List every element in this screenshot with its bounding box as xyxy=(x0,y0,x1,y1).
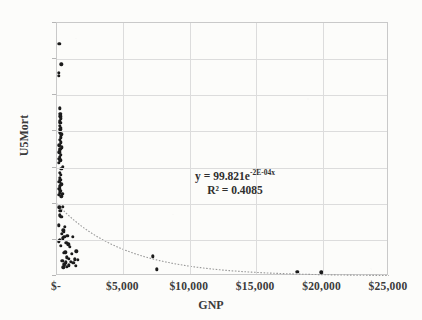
gridline-horizontal xyxy=(57,204,387,205)
y-axis-title: U5Mort xyxy=(17,96,32,176)
x-axis-tick-label: $15,000 xyxy=(220,280,290,292)
gridline-vertical xyxy=(323,23,324,274)
r-squared-line: R² = 0.4085 xyxy=(160,183,310,197)
x-axis-tick-label: $10,000 xyxy=(154,280,224,292)
y-axis-tick-mark xyxy=(52,203,56,204)
y-axis-tick-mark xyxy=(52,130,56,131)
trendline-svg xyxy=(57,23,389,276)
x-axis-tick-label: $5,000 xyxy=(87,280,157,292)
equation-body: y = 99.821e xyxy=(195,170,250,182)
y-axis-tick-mark xyxy=(52,22,56,23)
x-axis-tick-label: $25,000 xyxy=(353,280,422,292)
x-axis-tick-label: $- xyxy=(21,280,91,292)
trendline-equation-annotation: y = 99.821e-2E-04x R² = 0.4085 xyxy=(160,168,310,198)
equation-line: y = 99.821e-2E-04x xyxy=(160,168,310,183)
gridline-horizontal xyxy=(57,131,387,132)
y-axis-tick-mark xyxy=(52,275,56,276)
x-axis-tick-label: $20,000 xyxy=(287,280,357,292)
y-axis-tick-mark xyxy=(52,167,56,168)
gridline-vertical xyxy=(123,23,124,274)
gridline-horizontal xyxy=(57,240,387,241)
y-axis-tick-mark xyxy=(52,239,56,240)
plot-area xyxy=(56,22,388,275)
y-axis-tick-mark xyxy=(52,58,56,59)
gridline-horizontal xyxy=(57,59,387,60)
equation-exponent: -2E-04x xyxy=(250,168,275,177)
gridline-horizontal xyxy=(57,95,387,96)
x-axis-title: GNP xyxy=(0,298,422,313)
y-axis-tick-mark xyxy=(52,94,56,95)
gridline-vertical xyxy=(256,23,257,274)
chart-figure: 050100150200250300350 $-$5,000$10,000$15… xyxy=(0,0,422,320)
gridline-vertical xyxy=(190,23,191,274)
